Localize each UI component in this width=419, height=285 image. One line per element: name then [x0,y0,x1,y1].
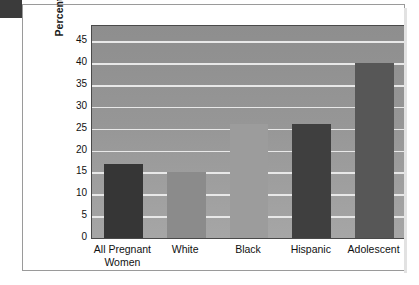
x-axis-label: White [154,243,217,256]
x-axis-label: Hispanic [279,243,342,256]
y-axis-title: Percentage with Late or No Prenatal Care [51,0,67,39]
y-axis-tick-labels: 051015202530354045 [67,25,87,239]
x-axis-label: Adolescent [342,243,405,256]
bar [292,124,331,238]
y-tick-label: 25 [67,123,87,133]
y-tick-label: 45 [67,35,87,45]
y-tick-label: 30 [67,101,87,111]
plot-area [91,25,407,239]
y-tick-label: 40 [67,57,87,67]
chart-figure-frame: Percentage with Late or No Prenatal Care… [22,4,405,271]
gridline [92,41,406,43]
bar [104,164,143,238]
bar [167,172,206,238]
y-tick-label: 5 [67,210,87,220]
y-tick-label: 10 [67,188,87,198]
x-axis-label: All PregnantWomen [91,243,154,269]
y-tick-label: 35 [67,79,87,89]
y-tick-label: 20 [67,145,87,155]
x-axis-label: Black [217,243,280,256]
bar [230,124,269,238]
x-axis-category-labels: All PregnantWomenWhiteBlackHispanicAdole… [91,243,407,275]
y-tick-label: 0 [67,232,87,242]
page-edge-artifact [0,0,22,18]
bar [355,63,394,238]
y-tick-label: 15 [67,166,87,176]
